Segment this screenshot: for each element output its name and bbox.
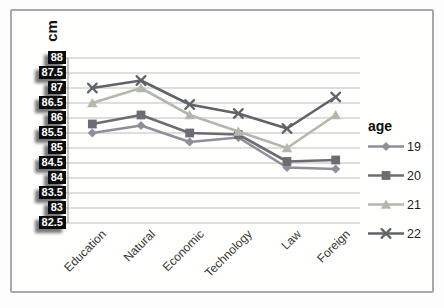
legend-entry: 22 (368, 227, 421, 240)
legend-swatch-triangle-icon (368, 198, 404, 211)
legend-title: age (368, 118, 421, 134)
y-axis-tick-label: 86.5 (39, 96, 66, 109)
legend: age 19202122 (368, 118, 421, 256)
y-axis-tick-label: 83.5 (39, 186, 66, 199)
legend-entry-label: 20 (407, 169, 421, 183)
y-axis-tick-label: 85.5 (39, 126, 66, 139)
y-axis-tick-label: 84.5 (39, 156, 66, 169)
square-marker-icon (382, 171, 391, 180)
y-axis-tick-label: 83 (48, 201, 66, 214)
y-axis-tick-label: 88 (48, 51, 66, 64)
diamond-marker-icon (381, 142, 390, 151)
legend-swatch-x-icon (368, 227, 404, 240)
legend-entry: 20 (368, 169, 421, 182)
legend-entry-label: 21 (407, 198, 421, 212)
legend-entry-label: 19 (407, 140, 421, 154)
y-axis-tick-labels: 8887.58786.58685.58584.58483.58382.5 (8, 0, 66, 308)
y-axis-tick-label: 82.5 (39, 216, 66, 229)
y-axis-tick-label: 85 (48, 141, 66, 154)
legend-entry-label: 22 (407, 227, 421, 241)
legend-entries: 19202122 (368, 140, 421, 256)
y-axis-tick-label: 86 (48, 111, 66, 124)
y-axis-tick-label: 84 (48, 171, 66, 184)
legend-swatch-diamond-icon (368, 140, 404, 153)
legend-swatch-square-icon (368, 169, 404, 182)
y-axis-tick-label: 87.5 (39, 66, 66, 79)
legend-entry: 19 (368, 140, 421, 153)
y-axis-tick-label: 87 (48, 81, 66, 94)
legend-entry: 21 (368, 198, 421, 211)
